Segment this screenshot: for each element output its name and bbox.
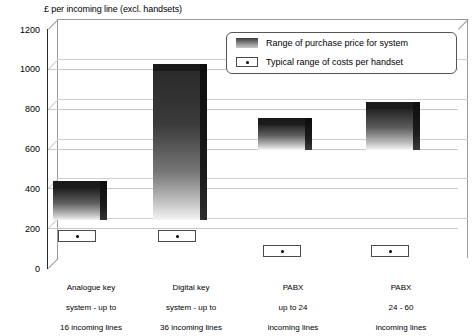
y-tick-200: 200 xyxy=(0,224,40,234)
category-line-1: Analogue key xyxy=(36,283,146,293)
y-tick-800: 800 xyxy=(0,104,40,114)
category-line-3: incoming lines xyxy=(351,323,451,333)
gridline-400 xyxy=(48,188,458,189)
legend-item-purchase-price[interactable]: Range of purchase price for system xyxy=(236,38,408,48)
handset-range-box-digital[interactable] xyxy=(158,230,196,242)
bar-top-face xyxy=(258,118,312,125)
handset-dot-icon xyxy=(176,235,179,238)
bar-top-face xyxy=(53,181,107,188)
gridline-back-200 xyxy=(58,218,468,219)
bar-side-face xyxy=(413,102,420,151)
category-line-1: PABX xyxy=(243,283,343,293)
gradient-swatch-icon xyxy=(236,38,258,48)
handset-range-box-pabx-24[interactable] xyxy=(263,245,301,257)
category-line-2: 24 - 60 xyxy=(351,303,451,313)
dot-box-swatch-icon xyxy=(236,57,258,67)
y-tick-400: 400 xyxy=(0,184,40,194)
category-line-1: Digital key xyxy=(136,283,246,293)
bar-side-face xyxy=(100,181,107,220)
category-line-3: incoming lines xyxy=(243,323,343,333)
y-tick-0: 0 xyxy=(0,264,40,274)
handset-dot-icon xyxy=(76,235,79,238)
category-line-3: 36 incoming lines xyxy=(136,323,246,333)
bar-top-face xyxy=(366,102,420,109)
bar-top-face xyxy=(153,64,207,71)
handset-dot-icon xyxy=(389,250,392,253)
legend-item-handset-costs[interactable]: Typical range of costs per handset xyxy=(236,57,403,67)
handset-dot-icon xyxy=(281,250,284,253)
gridline-200 xyxy=(48,228,458,229)
bar-side-face xyxy=(305,118,312,151)
y-tick-1000: 1000 xyxy=(0,64,40,74)
gridline-back-400 xyxy=(58,178,468,179)
bar-digital-key-system[interactable] xyxy=(153,71,200,220)
y-tick-600: 600 xyxy=(0,144,40,154)
y-tick-1200: 1200 xyxy=(0,25,40,35)
category-label-pabx-up-to-24: PABX up to 24 incoming lines xyxy=(243,273,343,336)
bar-front-face xyxy=(366,109,413,151)
category-line-2: system - up to xyxy=(36,303,146,313)
gridline-back-800 xyxy=(58,99,468,100)
handset-range-box-analogue[interactable] xyxy=(58,230,96,242)
bar-front-face xyxy=(258,125,305,151)
y-axis-title: £ per incoming line (excl. handsets) xyxy=(44,4,182,14)
category-line-1: PABX xyxy=(351,283,451,293)
category-line-2: up to 24 xyxy=(243,303,343,313)
handset-dot-icon xyxy=(246,61,249,64)
legend-label-purchase-price: Range of purchase price for system xyxy=(266,38,408,48)
legend: Range of purchase price for system Typic… xyxy=(226,32,457,74)
category-line-2: system - up to xyxy=(136,303,246,313)
category-label-digital-key-system: Digital key system - up to 36 incoming l… xyxy=(136,273,246,336)
legend-label-handset-costs: Typical range of costs per handset xyxy=(266,57,403,67)
category-line-3: 16 incoming lines xyxy=(36,323,146,333)
handset-range-box-pabx-60[interactable] xyxy=(371,245,409,257)
bar-side-face xyxy=(200,64,207,220)
bar-pabx-24-60[interactable] xyxy=(366,109,413,151)
category-label-pabx-24-60: PABX 24 - 60 incoming lines xyxy=(351,273,451,336)
bar-pabx-up-to-24[interactable] xyxy=(258,125,305,151)
depth-edge-bottom-left xyxy=(48,258,59,269)
bar-front-face xyxy=(153,71,200,220)
bar-analogue-key-system[interactable] xyxy=(53,188,100,220)
category-label-analogue-key-system: Analogue key system - up to 16 incoming … xyxy=(36,273,146,336)
bar-front-face xyxy=(53,188,100,220)
